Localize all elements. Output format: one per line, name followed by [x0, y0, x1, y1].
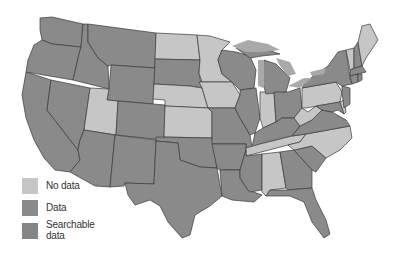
data-swatch: [22, 200, 38, 216]
searchable-data-swatch: [22, 223, 38, 239]
state-ny: [302, 50, 352, 88]
state-in: [260, 92, 276, 128]
legend-label: Data: [46, 203, 66, 213]
state-fl: [266, 188, 330, 238]
legend-label-line2: data: [46, 231, 65, 241]
state-sd: [154, 59, 202, 88]
legend-label: No data: [46, 181, 80, 191]
no-data-swatch: [22, 178, 38, 194]
lake-michigan: [258, 60, 264, 88]
state-me: [358, 24, 378, 66]
state-or: [26, 40, 81, 80]
state-co: [116, 101, 165, 140]
state-ks: [164, 106, 212, 138]
state-nd: [155, 33, 200, 60]
state-wy: [107, 65, 155, 104]
state-ri: [358, 74, 362, 82]
state-nm: [110, 135, 156, 187]
legend-label: Searchable: [46, 220, 95, 230]
